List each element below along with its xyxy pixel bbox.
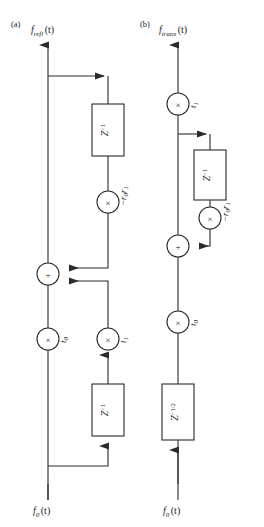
panel-b-multiplier-refl-glyph: × xyxy=(207,214,212,224)
signal-flow-figure: (a) frefl(t) Z−1 × −r0r1 xyxy=(0,0,264,527)
panel-a-input-label: f0(t) xyxy=(33,505,50,519)
panel-b-tag: (b) xyxy=(140,19,150,29)
panel-b-adder-glyph: + xyxy=(175,242,180,252)
panel-b-multiplier-refl-label: −r0r1 xyxy=(220,202,232,222)
panel-b-multiplier-t1-label: t1 xyxy=(188,102,200,108)
panel-a-multiplier-t0-label: t0 xyxy=(58,336,70,343)
panel-a-input-branch xyxy=(48,446,108,466)
panel-a-t1-to-adder xyxy=(70,281,108,328)
svg-text:f0(t): f0(t) xyxy=(33,505,50,519)
panel-a-multiplier-refl-label: −r0r1 xyxy=(118,186,130,206)
panel-b-delay-half xyxy=(162,384,194,440)
panel-b-input-label: f0(t) xyxy=(163,505,180,519)
panel-b-output-label: ftrans(t) xyxy=(159,24,187,38)
panel-a: (a) frefl(t) Z−1 × −r0r1 xyxy=(11,19,130,519)
svg-text:frefl(t): frefl(t) xyxy=(31,24,54,38)
panel-a-adder-glyph: + xyxy=(45,270,50,280)
panel-a-refl-to-adder xyxy=(70,213,108,268)
panel-b-multiplier-t0-glyph: × xyxy=(175,318,180,328)
output-argument: (t) xyxy=(45,24,54,36)
svg-text:ftrans(t): ftrans(t) xyxy=(159,24,187,38)
diagram-canvas: (a) frefl(t) Z−1 × −r0r1 xyxy=(0,0,264,527)
panel-a-multiplier-t0-glyph: × xyxy=(45,335,50,345)
panel-a-multiplier-t1-glyph: × xyxy=(105,335,110,345)
panel-a-output-label: frefl(t) xyxy=(31,24,54,38)
panel-a-multiplier-refl-glyph: × xyxy=(105,198,110,208)
panel-a-multiplier-t1-label: t1 xyxy=(118,337,130,343)
panel-b-refl-to-adder xyxy=(200,229,210,246)
output-subscript: refl xyxy=(34,30,44,38)
panel-a-tag: (a) xyxy=(11,19,21,29)
panel-b: (b) ftrans(t) × t1 Z−1 xyxy=(140,19,232,519)
panel-b-multiplier-t0-label: t0 xyxy=(188,319,200,326)
svg-text:f0(t): f0(t) xyxy=(163,505,180,519)
panel-a-delay-lower xyxy=(92,384,124,436)
panel-a-delay-upper xyxy=(92,104,124,156)
panel-b-delay-upper xyxy=(194,150,226,200)
panel-b-multiplier-t1-glyph: × xyxy=(175,100,180,110)
